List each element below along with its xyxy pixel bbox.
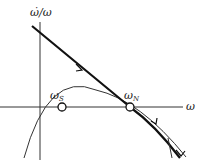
omega-n-point <box>126 103 134 111</box>
arrow-icon <box>151 118 157 124</box>
phase-diagram: ω̇/ω ω ωS ωN <box>0 0 202 163</box>
omega-n-label: ωN <box>124 89 140 103</box>
y-axis-label: ω̇/ω <box>30 6 52 19</box>
thin-curve <box>24 86 186 158</box>
omega-s-point <box>58 103 66 111</box>
x-axis-label: ω <box>186 100 195 113</box>
